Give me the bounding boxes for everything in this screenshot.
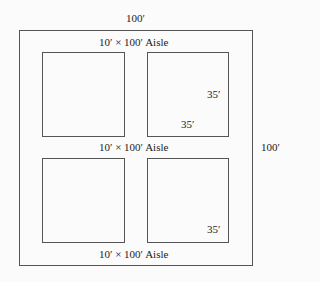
block-width-label: 35′ bbox=[181, 119, 194, 130]
aisle-label-middle: 10′ × 100′ Aisle bbox=[99, 142, 168, 153]
outer-width-label: 100′ bbox=[126, 13, 145, 24]
block-height-label: 35′ bbox=[207, 89, 220, 100]
aisle-label-bottom: 10′ × 100′ Aisle bbox=[99, 249, 168, 260]
block-top-left bbox=[42, 52, 125, 137]
outer-height-label: 100′ bbox=[261, 142, 280, 153]
block-corner-label: 35′ bbox=[207, 224, 220, 235]
block-bottom-left bbox=[42, 158, 125, 243]
aisle-label-top: 10′ × 100′ Aisle bbox=[99, 37, 168, 48]
